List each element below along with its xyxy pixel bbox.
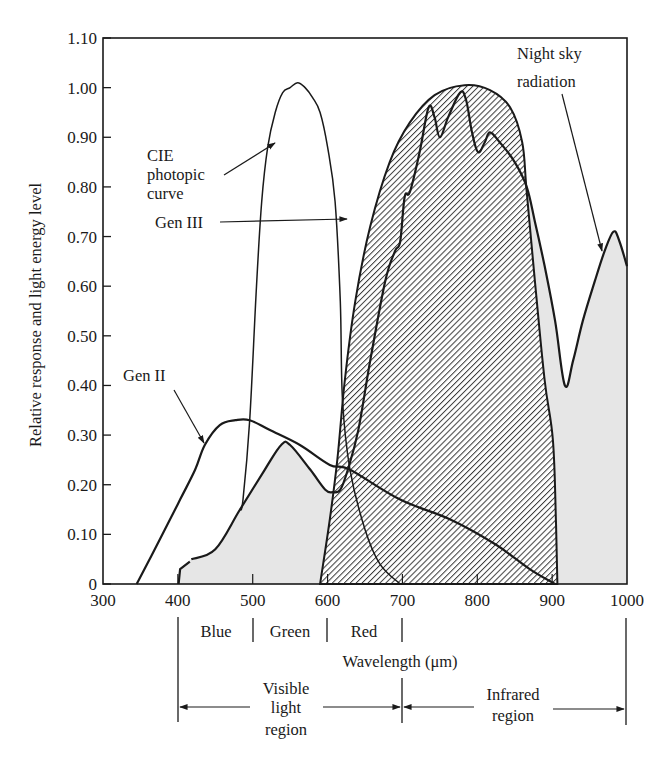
y-axis-ticks: 00.100.200.300.400.500.600.700.800.901.0…: [67, 29, 111, 594]
cie-label-line3: curve: [147, 184, 184, 203]
cie-arrow-icon: [224, 143, 275, 175]
band-label-green: Green: [270, 622, 310, 641]
x-tick-label: 300: [90, 591, 116, 610]
annotation-gen2: Gen II: [123, 366, 204, 443]
band-label-blue: Blue: [200, 622, 231, 641]
gen3-arrow-icon: [220, 219, 347, 222]
band-label-red: Red: [351, 622, 378, 641]
annotation-cie: CIE photopic curve: [147, 143, 275, 203]
x-tick-label: 1000: [610, 591, 644, 610]
visible-label-line1: Visible: [263, 679, 310, 698]
infrared-label-line1: Infrared: [486, 685, 540, 704]
x-tick-label: 600: [315, 591, 341, 610]
gen2-arrow-icon: [174, 390, 204, 443]
plot-area: [137, 83, 627, 584]
night-label-line2: radiation: [517, 72, 576, 91]
gen3-area: [320, 85, 557, 584]
night-arrow-icon: [562, 94, 602, 251]
y-tick-label: 1.00: [67, 79, 97, 98]
y-tick-label: 0.20: [67, 476, 97, 495]
y-tick-label: 0.80: [67, 178, 97, 197]
x-axis-title: Wavelength (μm): [342, 652, 457, 671]
cie-label-line1: CIE: [147, 146, 174, 165]
night-label-line1: Night sky: [517, 44, 582, 63]
x-tick-label: 800: [465, 591, 491, 610]
region-visible: Visible light region: [180, 679, 400, 739]
y-axis-title: Relative response and light energy level: [26, 183, 45, 447]
visible-label-line2: light: [271, 698, 302, 717]
y-tick-label: 0.30: [67, 426, 97, 445]
y-tick-label: 0.90: [67, 128, 97, 147]
x-tick-label: 900: [539, 591, 565, 610]
y-tick-label: 0.60: [67, 277, 97, 296]
y-tick-label: 0.40: [67, 376, 97, 395]
annotation-gen3: Gen III: [155, 213, 347, 232]
region-infrared: Infrared region: [404, 685, 624, 725]
spectral-response-chart: 00.100.200.300.400.500.600.700.800.901.0…: [0, 0, 664, 766]
y-tick-label: 1.10: [67, 29, 97, 48]
gen3-label: Gen III: [155, 213, 203, 232]
x-tick-label: 500: [240, 591, 266, 610]
infrared-label-line2: region: [492, 706, 534, 725]
cie-label-line2: photopic: [147, 165, 205, 184]
x-tick-label: 700: [390, 591, 416, 610]
y-tick-label: 0.10: [67, 525, 97, 544]
gen2-label: Gen II: [123, 366, 166, 385]
y-tick-label: 0.70: [67, 228, 97, 247]
y-tick-label: 0.50: [67, 327, 97, 346]
x-tick-label: 400: [165, 591, 191, 610]
visible-label-line3: region: [265, 720, 307, 739]
